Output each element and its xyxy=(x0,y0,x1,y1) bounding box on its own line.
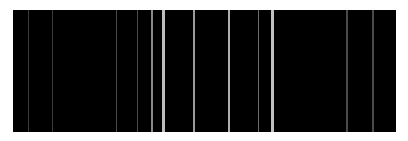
vertical-stripe xyxy=(271,10,274,132)
vertical-stripe xyxy=(346,10,348,132)
vertical-stripe xyxy=(228,10,230,132)
vertical-stripe xyxy=(258,10,259,132)
vertical-stripe xyxy=(162,10,165,132)
vertical-stripe xyxy=(28,10,29,132)
vertical-stripe xyxy=(137,10,138,132)
vertical-stripe xyxy=(116,10,117,132)
vertical-stripe xyxy=(372,10,374,132)
black-striped-panel xyxy=(13,10,396,132)
vertical-stripe xyxy=(193,10,195,132)
vertical-stripe xyxy=(52,10,53,132)
vertical-stripe xyxy=(151,10,153,132)
